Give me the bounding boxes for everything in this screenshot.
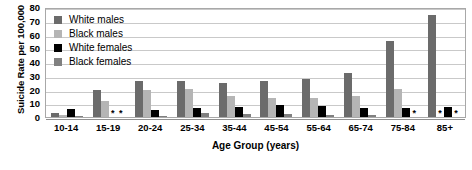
bar-slot xyxy=(344,9,352,117)
bar-group: ** xyxy=(423,9,465,117)
bar-slot xyxy=(143,9,151,117)
bar xyxy=(185,89,193,117)
legend-label: Black females xyxy=(69,56,131,67)
y-axis-tick-label: 30 xyxy=(14,73,40,81)
bar xyxy=(428,15,436,117)
bar-slot xyxy=(352,9,360,117)
bar xyxy=(310,98,318,117)
bar-slot xyxy=(227,9,235,117)
bar-group xyxy=(256,9,298,117)
bar-slot xyxy=(159,9,167,117)
bar xyxy=(360,108,368,117)
legend-swatch-icon xyxy=(54,44,62,52)
x-axis-tick-label: 15-19 xyxy=(87,122,129,133)
bar-slot xyxy=(386,9,394,117)
gridline xyxy=(46,119,465,120)
y-axis-tick-label: 0 xyxy=(14,114,40,122)
legend-item: Black males xyxy=(54,27,132,40)
bar xyxy=(352,96,360,117)
bar-group: * xyxy=(381,9,423,117)
x-axis-tick-label: 85+ xyxy=(424,122,466,133)
bar xyxy=(394,89,402,117)
legend-item: White females xyxy=(54,41,132,54)
bar xyxy=(386,41,394,117)
bar-slot xyxy=(394,9,402,117)
bar xyxy=(227,96,235,117)
bar-slot xyxy=(302,9,310,117)
bar xyxy=(93,90,101,117)
x-axis-tick-label: 55-64 xyxy=(298,122,340,133)
bar xyxy=(344,73,352,117)
legend-swatch-icon xyxy=(54,16,62,24)
bar-slot xyxy=(260,9,268,117)
bar xyxy=(75,116,83,117)
bar xyxy=(402,108,410,117)
legend-label: Black males xyxy=(69,28,123,39)
bar-slot xyxy=(185,9,193,117)
bar-slot xyxy=(276,9,284,117)
x-axis-tick-label: 75-84 xyxy=(382,122,424,133)
x-axis-tick-labels: 10-1415-1920-2425-3435-4445-5455-6465-74… xyxy=(45,122,466,133)
bar xyxy=(201,113,209,117)
bar xyxy=(444,107,452,117)
bar xyxy=(59,115,67,117)
suppressed-value-marker: * xyxy=(452,110,460,117)
bar-slot xyxy=(402,9,410,117)
bar-slot xyxy=(243,9,251,117)
x-axis-tick-label: 65-74 xyxy=(340,122,382,133)
legend-label: White females xyxy=(69,42,132,53)
x-axis-tick-label: 20-24 xyxy=(129,122,171,133)
bar xyxy=(318,106,326,117)
x-axis-tick-label: 35-44 xyxy=(213,122,255,133)
plot-area: ***** White malesBlack malesWhite female… xyxy=(45,8,466,118)
bar-slot: * xyxy=(410,9,418,117)
bar-group xyxy=(172,9,214,117)
bar xyxy=(268,98,276,117)
bar-group xyxy=(339,9,381,117)
bar xyxy=(235,107,243,117)
bar xyxy=(302,79,310,117)
bar xyxy=(67,109,75,117)
chart-legend: White malesBlack malesWhite femalesBlack… xyxy=(54,13,132,68)
bar-group xyxy=(130,9,172,117)
suppressed-value-marker: * xyxy=(117,110,125,117)
bar xyxy=(284,114,292,117)
y-axis-tick-label: 40 xyxy=(14,59,40,67)
legend-swatch-icon xyxy=(54,30,62,38)
bar-slot: * xyxy=(452,9,460,117)
bar-slot xyxy=(444,9,452,117)
bar xyxy=(177,81,185,117)
bar-slot xyxy=(326,9,334,117)
bar-slot xyxy=(318,9,326,117)
bar xyxy=(135,81,143,117)
bar xyxy=(101,101,109,117)
bar-slot xyxy=(193,9,201,117)
x-axis-tick-label: 25-34 xyxy=(171,122,213,133)
bar-slot xyxy=(360,9,368,117)
suppressed-value-marker: * xyxy=(436,110,444,117)
bar-slot xyxy=(235,9,243,117)
y-axis-tick-label: 70 xyxy=(14,18,40,26)
suppressed-value-marker: * xyxy=(109,110,117,117)
y-axis-tick-label: 50 xyxy=(14,45,40,53)
bar-slot: * xyxy=(436,9,444,117)
bar xyxy=(159,116,167,117)
bar-slot xyxy=(177,9,185,117)
chart-figure: Suicide Rate per 100,000 807060504030201… xyxy=(0,0,472,170)
bar xyxy=(326,115,334,117)
bar-group xyxy=(214,9,256,117)
bar xyxy=(368,115,376,117)
bar xyxy=(151,110,159,117)
legend-swatch-icon xyxy=(54,58,62,66)
bar-slot xyxy=(428,9,436,117)
bar-slot xyxy=(201,9,209,117)
bar xyxy=(143,90,151,118)
y-axis-tick-label: 60 xyxy=(14,32,40,40)
y-axis-tick-labels: 80706050403020100 xyxy=(14,8,40,118)
y-axis-tick-label: 10 xyxy=(14,100,40,108)
legend-item: Black females xyxy=(54,55,132,68)
bar-slot xyxy=(368,9,376,117)
bar-slot xyxy=(135,9,143,117)
bar-slot xyxy=(268,9,276,117)
x-axis-tick-label: 45-54 xyxy=(255,122,297,133)
